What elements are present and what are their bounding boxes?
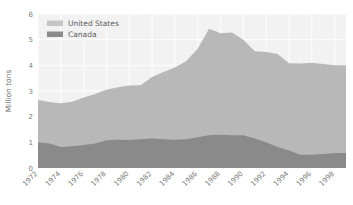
y-axis-label: Million tons xyxy=(4,70,13,113)
y-tick-label: 3 xyxy=(29,88,33,96)
y-tick-label: 5 xyxy=(29,36,33,44)
legend-swatch-canada xyxy=(47,32,63,38)
y-tick-label: 2 xyxy=(29,113,33,121)
y-tick-label: 1 xyxy=(29,139,33,147)
x-tick-label: 1982 xyxy=(135,170,153,188)
x-tick-label: 1994 xyxy=(272,169,291,188)
x-tick-label: 1976 xyxy=(67,169,86,188)
legend-label-united-states: United States xyxy=(68,19,119,28)
y-tick-label: 4 xyxy=(29,62,34,70)
x-tick-label: 1998 xyxy=(318,170,336,188)
area-chart: 0123456 19721974197619781980198219841986… xyxy=(0,0,353,205)
legend-label-canada: Canada xyxy=(68,30,97,39)
x-tick-label: 1992 xyxy=(249,170,267,188)
chart-canvas: 0123456 19721974197619781980198219841986… xyxy=(0,0,353,205)
x-tick-label: 1996 xyxy=(295,169,314,188)
x-tick-label: 1990 xyxy=(226,170,244,188)
x-axis-ticks: 1972197419761978198019821984198619881990… xyxy=(21,169,336,188)
x-tick-label: 1984 xyxy=(158,169,177,188)
x-tick-label: 1974 xyxy=(44,169,63,188)
legend-swatch-united-states xyxy=(47,21,63,27)
x-tick-label: 1978 xyxy=(90,170,108,188)
x-tick-label: 1980 xyxy=(112,170,130,188)
x-tick-label: 1988 xyxy=(204,170,222,188)
x-tick-label: 1972 xyxy=(21,170,39,188)
x-tick-label: 1986 xyxy=(181,169,200,188)
y-tick-label: 6 xyxy=(29,11,34,19)
y-axis-ticks: 0123456 xyxy=(29,11,34,173)
